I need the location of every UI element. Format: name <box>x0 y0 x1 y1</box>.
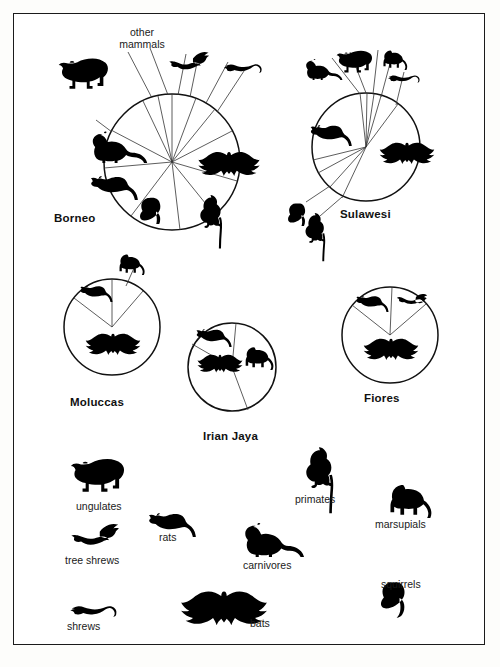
pie-chart-irian-jaya <box>188 323 276 411</box>
pie-chart-fiores <box>342 287 438 383</box>
legend-icon-marsupials <box>390 485 431 522</box>
callout-icon-carnivores-sulawesi <box>306 59 343 87</box>
legend-icon-ungulates <box>71 459 124 492</box>
callout-icon-shrews-sulawesi <box>388 75 420 82</box>
callout-icon-shrews-borneo <box>224 64 262 73</box>
legend-label-bats: bats <box>250 617 270 629</box>
callout-icon-other-moluccas <box>120 255 145 278</box>
legend-label-tree-shrews: tree shrews <box>65 554 119 566</box>
legend-label-shrews: shrews <box>67 620 100 632</box>
legend-silhouettes <box>70 447 431 625</box>
legend-icon-shrews <box>70 606 116 617</box>
legend-label-ungulates: ungulates <box>76 500 122 512</box>
annotation-line-1: other <box>130 26 154 38</box>
legend-label-rats: rats <box>159 531 177 543</box>
pie-chart-moluccas <box>64 255 160 375</box>
legend-label-carnivores: carnivores <box>243 559 291 571</box>
callout-icon-other-sulawesi <box>383 50 407 72</box>
callout-icon-ungulates-borneo <box>59 59 108 89</box>
pie-chart-sulawesi <box>288 50 434 261</box>
legend-label-squirrels: squirrels <box>381 578 421 590</box>
callout-icon-primates-sulawesi <box>306 213 326 261</box>
caption-sulawesi: Sulawesi <box>340 208 391 220</box>
callout-icon-ungulates-sulawesi <box>337 51 372 73</box>
caption-fiores: Fiores <box>364 392 400 404</box>
caption-moluccas: Moluccas <box>70 396 124 408</box>
callout-icon-squirrels-sulawesi <box>288 203 305 229</box>
caption-borneo: Borneo <box>54 212 95 224</box>
legend-icon-tree-shrews <box>71 524 119 545</box>
legend-label-marsupials: marsupials <box>375 518 426 530</box>
annotation-line-2: mammals <box>119 38 165 50</box>
callout-icon-tree-shrews-borneo <box>169 52 209 69</box>
annotation-other-mammals: other mammals <box>106 27 178 50</box>
legend-label-primates: primates <box>295 493 335 505</box>
caption-irian-jaya: Irian Jaya <box>203 430 258 442</box>
